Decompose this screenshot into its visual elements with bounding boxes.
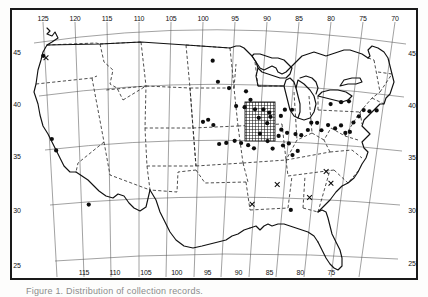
longitude-tick-bottom-105: 105 [140, 269, 151, 276]
longitude-tick-top-115: 115 [102, 15, 113, 22]
collection-record-dot [216, 80, 220, 84]
collection-record-dot [261, 107, 265, 111]
collection-record-dot [357, 114, 361, 118]
longitude-tick-bottom-110: 110 [110, 269, 121, 276]
longitude-tick-bottom-90: 90 [235, 269, 242, 276]
collection-record-dot [234, 104, 238, 108]
collection-record-dot [253, 107, 257, 111]
collection-record-dot [343, 131, 347, 135]
latitude-tick-right-45: 45 [408, 50, 415, 57]
collection-record-dot [339, 123, 343, 127]
collection-record-dot [296, 149, 300, 153]
collection-record-dot [217, 142, 221, 146]
collection-record-dot [265, 139, 269, 143]
literature-record-cross [44, 55, 49, 60]
collection-record-dot [329, 102, 333, 106]
collection-record-dot [265, 121, 269, 125]
collection-record-dot [339, 100, 343, 104]
collection-record-dot [281, 143, 285, 147]
longitude-tick-top-105: 105 [165, 15, 176, 22]
collection-record-dot [348, 130, 352, 134]
collection-record-dot [347, 99, 351, 103]
longitude-tick-bottom-115: 115 [79, 269, 90, 276]
collection-record-dot [50, 137, 54, 141]
latitude-tick-right-40: 40 [408, 102, 415, 109]
collection-record-dot [252, 146, 256, 150]
longitude-tick-top-120: 120 [69, 15, 80, 22]
collection-record-dot [289, 208, 293, 212]
collection-record-dot [267, 111, 271, 115]
literature-record-cross [329, 181, 334, 186]
longitude-tick-top-95: 95 [231, 15, 238, 22]
literature-record-cross [307, 195, 312, 200]
collection-record-dot [244, 89, 248, 93]
collection-record-dot [293, 132, 297, 136]
collection-record-dot [211, 59, 215, 63]
longitude-tick-top-70: 70 [391, 15, 398, 22]
collection-record-dot [279, 114, 283, 118]
longitude-tick-top-125: 125 [37, 15, 48, 22]
latitude-tick-right-30: 30 [408, 207, 415, 214]
collection-record-dot [227, 86, 231, 90]
longitude-tick-top-75: 75 [359, 15, 366, 22]
longitude-tick-top-90: 90 [263, 15, 270, 22]
collection-record-dot [233, 139, 237, 143]
collection-record-dot [315, 121, 319, 125]
collection-record-dot [271, 146, 275, 150]
collection-record-dot [268, 115, 272, 119]
collection-record-dot [351, 120, 355, 124]
collection-record-dot [206, 118, 210, 122]
collection-record-dot [87, 202, 91, 206]
collection-record-dot [257, 116, 261, 120]
collection-record-dot [258, 132, 262, 136]
collection-record-dot [246, 143, 250, 147]
collection-record-dot [290, 108, 294, 112]
longitude-tick-top-80: 80 [327, 15, 334, 22]
longitude-tick-bottom-80: 80 [297, 269, 304, 276]
collection-record-dot [239, 141, 243, 145]
figure-caption: Figure 1. Distribution of collection rec… [26, 286, 203, 297]
collection-record-dot [242, 105, 246, 109]
longitude-tick-bottom-85: 85 [266, 269, 273, 276]
literature-record-cross [324, 169, 329, 174]
latitude-tick-left-45: 45 [13, 49, 20, 56]
longitude-tick-top-110: 110 [134, 15, 145, 22]
longitude-tick-top-100: 100 [197, 15, 208, 22]
map-canvas [0, 0, 428, 297]
collection-record-dot [287, 141, 291, 145]
collection-record-dot [306, 128, 310, 132]
meridian-lines [43, 22, 395, 277]
collection-record-dot [319, 128, 323, 132]
collection-record-dot [299, 133, 303, 137]
longitude-tick-top-85: 85 [295, 15, 302, 22]
latitude-tick-left-30: 30 [13, 207, 20, 214]
collection-record-dot [283, 108, 287, 112]
distribution-map-figure: 125120115110105100959085807570 115110105… [0, 0, 428, 297]
collection-record-dot [277, 134, 281, 138]
collection-record-dot [279, 128, 283, 132]
coastline-outline [34, 28, 394, 270]
longitude-tick-bottom-100: 100 [171, 269, 182, 276]
latitude-tick-left-25: 25 [13, 262, 20, 269]
literature-record-cross [275, 182, 280, 187]
latitude-tick-left-40: 40 [13, 101, 20, 108]
collection-record-dot [375, 108, 379, 112]
literature-record-cross [250, 202, 255, 207]
collection-record-dot [54, 148, 58, 152]
collection-record-dot [201, 120, 205, 124]
latitude-tick-right-35: 35 [408, 154, 415, 161]
latitude-tick-right-25: 25 [408, 260, 415, 267]
collection-record-dot [211, 123, 215, 127]
collection-record-dot [285, 131, 289, 135]
collection-record-dot [367, 109, 371, 113]
collection-record-dot [290, 153, 294, 157]
collection-record-dot [248, 98, 252, 102]
collection-record-dot [326, 123, 330, 127]
latitude-tick-left-35: 35 [13, 153, 20, 160]
longitude-tick-bottom-75: 75 [327, 269, 334, 276]
longitude-tick-bottom-95: 95 [204, 269, 211, 276]
collection-record-dot [309, 121, 313, 125]
collection-record-dot [224, 141, 228, 145]
collection-record-dot [362, 108, 366, 112]
collection-record-dot [333, 126, 337, 130]
